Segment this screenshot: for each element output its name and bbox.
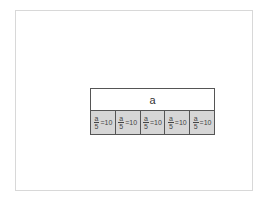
denominator: 5 [95, 123, 99, 130]
denominator: 5 [119, 123, 123, 130]
fraction: a5 [118, 115, 124, 130]
denominator: 5 [169, 123, 173, 130]
part-value: =10 [175, 119, 187, 126]
numerator: a [143, 115, 149, 123]
diagram-frame: a a5 =10 a5 =10 a5 =10 a5 =10 a5 =10 [15, 10, 253, 191]
whole-label: a [149, 94, 155, 106]
numerator: a [118, 115, 124, 123]
fraction: a5 [168, 115, 174, 130]
denominator: 5 [144, 123, 148, 130]
part-value: =10 [125, 119, 137, 126]
denominator: 5 [194, 123, 198, 130]
part-cell: a5 =10 [116, 111, 141, 134]
parts-row: a5 =10 a5 =10 a5 =10 a5 =10 a5 =10 [90, 111, 215, 135]
part-cell: a5 =10 [165, 111, 190, 134]
numerator: a [168, 115, 174, 123]
part-value: =10 [100, 119, 112, 126]
part-value: =10 [200, 119, 212, 126]
whole-bar: a [90, 88, 215, 111]
part-cell: a5 =10 [141, 111, 166, 134]
part-value: =10 [150, 119, 162, 126]
fraction: a5 [193, 115, 199, 130]
numerator: a [193, 115, 199, 123]
part-cell: a5 =10 [190, 111, 214, 134]
fraction: a5 [94, 115, 100, 130]
numerator: a [94, 115, 100, 123]
part-cell: a5 =10 [91, 111, 116, 134]
fraction: a5 [143, 115, 149, 130]
bar-model: a a5 =10 a5 =10 a5 =10 a5 =10 a5 =10 [90, 88, 215, 135]
